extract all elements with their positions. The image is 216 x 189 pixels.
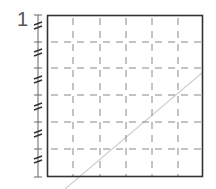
diagonal-line [65, 72, 203, 189]
grid-diagram [0, 0, 216, 189]
grid-frame [48, 16, 203, 177]
horizontal-grid-lines [51, 42, 203, 149]
vertical-axis [34, 15, 42, 177]
vertical-grid-lines [73, 18, 178, 177]
